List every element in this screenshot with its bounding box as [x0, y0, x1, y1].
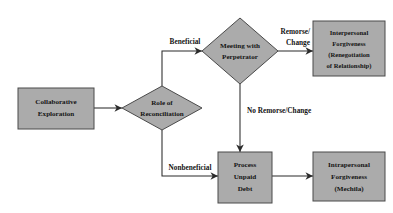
edge-debt-to-intrapersonal [272, 172, 313, 180]
node-label-line: Meeting with [220, 42, 260, 50]
node-label-line: Process [234, 161, 257, 169]
node-meeting-with-perpetrator[interactable]: Meeting with Perpetrator [202, 18, 278, 84]
node-label-line: Intrapersonal [328, 161, 370, 169]
node-label-line: Interpersonal [330, 29, 369, 36]
node-collaborative-exploration[interactable]: Collaborative Exploration [18, 88, 94, 129]
edge-label-remorse-change-line1: Remorse/ [280, 27, 311, 36]
flowchart-diagram: Collaborative Exploration Role of Reconc… [0, 0, 393, 213]
node-label-line: of Relationship) [327, 62, 372, 70]
node-shape-diamond [122, 86, 202, 130]
node-label-line: Collaborative [35, 98, 76, 106]
node-interpersonal-forgiveness[interactable]: Interpersonal Forgiveness (Renegotiation… [313, 21, 385, 76]
node-intrapersonal-forgiveness[interactable]: Intrapersonal Forgiveness (Mechila) [313, 152, 385, 201]
edge-label-no-remorse-change: No Remorse/Change [247, 106, 312, 115]
node-label-line: (Mechila) [334, 185, 364, 193]
node-label-line: Debt [238, 185, 253, 193]
edge-label-beneficial: Beneficial [170, 37, 201, 46]
edge-beneficial [162, 47, 202, 86]
edge-exploration-to-reconciliation [94, 104, 122, 112]
node-label-line: Reconciliation [140, 110, 183, 118]
node-label-line: Unpaid [234, 173, 257, 181]
node-label-line: Perpetrator [222, 53, 258, 61]
node-label-line: Forgiveness [332, 40, 366, 47]
node-shape-rectangle [18, 88, 94, 129]
node-role-of-reconciliation[interactable]: Role of Reconciliation [122, 86, 202, 130]
node-shape-diamond [202, 18, 278, 84]
edge-no-remorse-change [236, 84, 244, 152]
edge-nonbeneficial [162, 130, 218, 180]
flowchart-canvas: Collaborative Exploration Role of Reconc… [0, 0, 393, 213]
edge-label-nonbeneficial: Nonbeneficial [169, 163, 212, 172]
node-label-line: Role of [151, 99, 173, 107]
node-label-line: (Renegotiation [328, 51, 370, 59]
node-label-line: Forgiveness [331, 173, 367, 181]
edge-remorse-change [278, 47, 313, 55]
edge-line-beneficial [162, 51, 202, 86]
node-process-unpaid-debt[interactable]: Process Unpaid Debt [218, 152, 272, 203]
edge-label-remorse-change-line2: Change [286, 38, 311, 47]
node-label-line: Exploration [38, 110, 74, 118]
